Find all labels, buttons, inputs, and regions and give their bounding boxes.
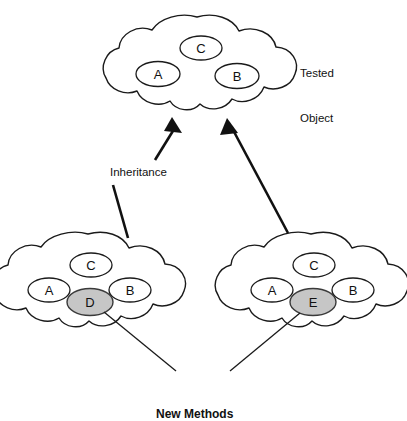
- left-subclass-cloud: C A B D: [0, 232, 185, 327]
- diagram-svg: C A B C A B D C A B: [0, 0, 407, 421]
- member-label-a-left: A: [45, 283, 54, 298]
- new-methods-label: New Methods Need Testing: [156, 377, 233, 421]
- member-label-b-right: B: [349, 283, 358, 298]
- tested-object-line-2: Object: [300, 111, 334, 126]
- cloud-outline-top: [103, 15, 296, 110]
- member-label-b-top: B: [233, 69, 242, 84]
- diagram-canvas: C A B C A B D C A B: [0, 0, 407, 421]
- tested-object-cloud: C A B: [103, 15, 296, 110]
- member-label-a-top: A: [154, 67, 163, 82]
- member-label-c-right: C: [309, 258, 318, 273]
- right-subclass-cloud: C A B E: [215, 232, 407, 327]
- right-arrow-head: [220, 118, 238, 135]
- member-label-b-left: B: [126, 283, 135, 298]
- member-label-e-right: E: [309, 295, 318, 310]
- member-label-c-left: C: [86, 258, 95, 273]
- right-arrow-segment: [232, 128, 288, 233]
- tested-object-label: Tested Object: [300, 36, 334, 156]
- left-arrow-head: [164, 117, 182, 133]
- left-method-leader-line: [104, 312, 176, 371]
- member-label-d-left: D: [85, 295, 94, 310]
- member-label-c-top: C: [196, 41, 205, 56]
- new-methods-line-1: New Methods: [156, 407, 233, 421]
- member-label-a-right: A: [268, 283, 277, 298]
- tested-object-line-1: Tested: [300, 66, 334, 81]
- right-inheritance-arrow: [220, 118, 288, 233]
- inheritance-label: Inheritance: [110, 165, 167, 180]
- right-method-leader-line: [230, 313, 300, 371]
- left-arrow-lower-segment: [113, 185, 128, 238]
